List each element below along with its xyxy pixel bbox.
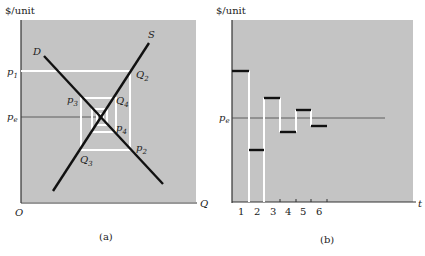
- p1-label: p1: [7, 66, 18, 80]
- tick-label-1: 1: [238, 206, 244, 217]
- panel-a-caption: (a): [99, 231, 113, 242]
- origin-label: O: [15, 207, 23, 218]
- panel-b-x-axis-label: t: [418, 198, 423, 209]
- panel-b-plot-area: [232, 20, 413, 202]
- cobweb-figure: $/unit Q O D S p1 pe p3 p4 p2 Q2 Q4 Q3 (…: [0, 0, 425, 256]
- pe-label-a: pe: [7, 111, 18, 124]
- pe-label-b: pe: [219, 112, 230, 125]
- panel-a: $/unit Q O D S p1 pe p3 p4 p2 Q2 Q4 Q3 (…: [5, 5, 208, 242]
- supply-label: S: [148, 29, 155, 40]
- panel-b-caption: (b): [320, 234, 334, 245]
- panel-a-x-axis-label: Q: [200, 198, 208, 209]
- tick-label-2: 2: [254, 206, 260, 217]
- panel-a-plot-area: [21, 20, 196, 202]
- panel-b-y-axis-label: $/unit: [216, 5, 246, 16]
- tick-label-6: 6: [316, 206, 322, 217]
- tick-label-4: 4: [285, 206, 291, 217]
- tick-label-5: 5: [300, 206, 306, 217]
- panel-b: $/unit t pe 1 2 3 4 5 6 (b): [216, 5, 423, 245]
- demand-label: D: [32, 46, 41, 57]
- panel-b-tick-labels: 1 2 3 4 5 6: [238, 206, 322, 217]
- tick-label-3: 3: [270, 206, 276, 217]
- panel-a-y-axis-label: $/unit: [5, 5, 35, 16]
